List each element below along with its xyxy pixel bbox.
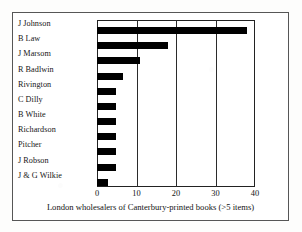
category-label: J Robson [18, 156, 96, 165]
category-label: Pitcher [18, 140, 96, 149]
bar [97, 148, 116, 155]
category-label: J Marsom [18, 49, 96, 58]
bar [97, 133, 116, 140]
x-axis-ticks: 010203040 [97, 189, 255, 201]
category-label: J Johnson [18, 19, 96, 28]
category-label: Richardson [18, 125, 96, 134]
bar [97, 103, 116, 110]
bar [97, 164, 116, 171]
x-axis-label: London wholesalers of Canterbury-printed… [14, 202, 287, 213]
bar-row [97, 81, 255, 96]
bars-layer [97, 20, 255, 187]
x-tick-label-0: 0 [95, 189, 99, 199]
bar-row [97, 66, 255, 81]
x-tick-label-20: 20 [172, 189, 180, 199]
bar [97, 57, 140, 64]
bar [97, 179, 108, 186]
bar-row [97, 126, 255, 141]
bar-row [97, 141, 255, 156]
category-label: B White [18, 110, 96, 119]
bar [97, 42, 168, 49]
category-label: C Dilly [18, 95, 96, 104]
bar-row [97, 35, 255, 50]
category-label: Rivington [18, 80, 96, 89]
x-tick-label-40: 40 [251, 189, 259, 199]
x-tick-label-30: 30 [211, 189, 219, 199]
bar-row [97, 157, 255, 172]
bar-row [97, 96, 255, 111]
category-label: B Law [18, 34, 96, 43]
x-tick-label-10: 10 [132, 189, 140, 199]
category-labels: J JohnsonB LawJ MarsomR BadlwinRivington… [18, 20, 96, 187]
bar [97, 73, 123, 80]
bar [97, 118, 116, 125]
bar [97, 27, 247, 34]
figure: J JohnsonB LawJ MarsomR BadlwinRivington… [0, 0, 302, 232]
category-label: J & G Wilkie [18, 171, 96, 180]
bar-row [97, 50, 255, 65]
bar [97, 88, 116, 95]
category-label: R Badlwin [18, 65, 96, 74]
bar-row [97, 111, 255, 126]
bar-row [97, 172, 255, 187]
bar-row [97, 20, 255, 35]
